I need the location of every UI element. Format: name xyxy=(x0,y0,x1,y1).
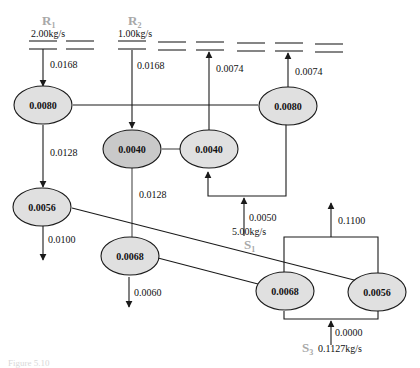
svg-text:0.0080: 0.0080 xyxy=(274,101,302,112)
edge-n7-n8-top xyxy=(284,237,378,273)
flow-n1-n5: 0.0128 xyxy=(50,147,78,158)
flow-n7n8-out: 0.1100 xyxy=(338,215,365,226)
source-s1-name: S1 xyxy=(244,237,255,254)
source-s3-name: S3 xyxy=(302,340,313,357)
svg-text:0.0040: 0.0040 xyxy=(118,144,146,155)
source-r2: R2 1.00kg/s xyxy=(118,13,152,39)
node-n7[interactable]: 0.0068 xyxy=(256,272,314,310)
node-n5[interactable]: 0.0056 xyxy=(13,188,71,226)
edge-n6-n7 xyxy=(158,258,258,284)
source-r2-rate: 1.00kg/s xyxy=(118,28,152,39)
svg-text:0.0080: 0.0080 xyxy=(29,100,57,111)
node-n3[interactable]: 0.0040 xyxy=(180,130,238,168)
node-n4[interactable]: 0.0080 xyxy=(259,87,317,125)
flow-s3-in: 0.0000 xyxy=(335,327,363,338)
source-r1-rate: 2.00kg/s xyxy=(31,28,65,39)
node-n6[interactable]: 0.0068 xyxy=(101,237,159,275)
figure-caption: Figure 5.10 xyxy=(8,358,50,368)
flow-r2-in: 0.0168 xyxy=(137,60,165,71)
source-s3-rate: 0.1127kg/s xyxy=(318,343,362,354)
source-s1-rate: 5.00kg/s xyxy=(232,226,266,237)
svg-text:0.0056: 0.0056 xyxy=(28,202,56,213)
edges xyxy=(43,49,378,345)
header-bus-lines xyxy=(29,41,343,52)
edge-n7-n8-bottom xyxy=(284,311,378,319)
flow-n3-out: 0.0074 xyxy=(216,63,244,74)
svg-text:0.0056: 0.0056 xyxy=(363,287,391,298)
flow-n4-out: 0.0074 xyxy=(295,66,323,77)
svg-text:0.0068: 0.0068 xyxy=(116,251,144,262)
node-n8[interactable]: 0.0056 xyxy=(348,273,406,311)
node-n1[interactable]: 0.0080 xyxy=(14,86,72,124)
flow-n5-out: 0.0100 xyxy=(48,234,76,245)
flow-s1-in: 0.0050 xyxy=(249,212,277,223)
flow-r1-in: 0.0168 xyxy=(50,59,78,70)
source-r1: R1 2.00kg/s xyxy=(31,13,65,39)
flow-labels: 0.0168 0.0168 0.0074 0.0074 0.0128 0.012… xyxy=(48,59,365,357)
mass-exchange-network-diagram: R1 2.00kg/s R2 1.00kg/s xyxy=(0,0,420,368)
svg-text:0.0068: 0.0068 xyxy=(271,286,299,297)
flow-n2-n6: 0.0128 xyxy=(139,189,167,200)
node-n2[interactable]: 0.0040 xyxy=(103,130,161,168)
svg-text:0.0040: 0.0040 xyxy=(195,144,223,155)
flow-n6-out: 0.0060 xyxy=(134,287,162,298)
